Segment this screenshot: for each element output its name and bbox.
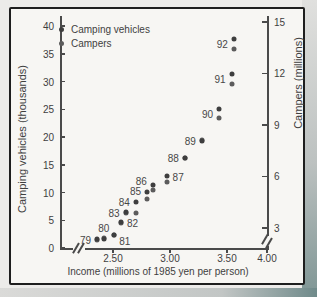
- chart-frame: Camping vehicles Campers Camping vehicle…: [9, 7, 305, 285]
- right-tick-label: 6: [274, 171, 280, 182]
- left-y-axis: [60, 16, 62, 248]
- left-tick-mark: [60, 81, 65, 83]
- camping-vehicles-data-point: [231, 37, 236, 42]
- year-label: 87: [173, 171, 184, 182]
- right-tick-mark: [262, 21, 267, 23]
- campers-data-point: [164, 179, 169, 184]
- camping-vehicles-data-point: [133, 199, 138, 204]
- right-axis-title: Campers (millions): [292, 37, 304, 129]
- right-tick-label: 12: [274, 68, 285, 79]
- campers-data-point: [150, 188, 155, 193]
- scatter-plot: Camping vehicles Campers Camping vehicle…: [11, 9, 303, 283]
- campers-data-point: [145, 196, 150, 201]
- camping-vehicles-data-point: [118, 220, 123, 225]
- left-tick-mark: [60, 192, 65, 194]
- left-tick-label: 20: [43, 132, 54, 143]
- x-tick-label: 2.50: [103, 253, 122, 264]
- left-tick-mark: [60, 136, 65, 138]
- left-tick-label: 0: [48, 243, 54, 254]
- right-tick-label: 3: [274, 223, 280, 234]
- left-tick-label: 5: [48, 215, 54, 226]
- year-label: 84: [119, 197, 130, 208]
- right-tick-label: 15: [274, 16, 285, 27]
- camping-vehicles-data-point: [145, 189, 150, 194]
- left-tick-label: 15: [43, 159, 54, 170]
- left-tick-mark: [60, 164, 65, 166]
- year-label: 90: [202, 108, 213, 119]
- camping-vehicles-data-point: [182, 155, 187, 160]
- year-label: 88: [168, 152, 179, 163]
- right-tick-label: 9: [274, 119, 280, 130]
- campers-data-point: [217, 116, 222, 121]
- x-tick-label: 3.50: [217, 253, 236, 264]
- year-label: 89: [185, 135, 196, 146]
- year-label: 86: [136, 176, 147, 187]
- left-tick-mark: [60, 220, 65, 222]
- left-tick-label: 40: [43, 21, 54, 32]
- left-tick-mark: [60, 109, 65, 111]
- campers-data-point: [229, 81, 234, 86]
- year-label: 85: [130, 186, 141, 197]
- left-tick-label: 10: [43, 187, 54, 198]
- campers-data-point: [133, 210, 138, 215]
- year-label: 81: [119, 235, 130, 246]
- x-axis: [60, 248, 269, 250]
- right-y-axis: [267, 16, 269, 248]
- camping-vehicles-data-point: [164, 173, 169, 178]
- legend-label-camping-vehicles: Camping vehicles: [71, 24, 150, 35]
- camping-vehicles-data-point: [150, 182, 155, 187]
- campers-data-point: [231, 47, 236, 52]
- x-axis-title: Income (millions of 1985 yen per person): [67, 266, 248, 277]
- camping-vehicles-data-point: [199, 138, 204, 143]
- year-label: 80: [98, 223, 109, 234]
- x-tick-label: 4.00: [257, 253, 276, 264]
- year-label: 83: [108, 207, 119, 218]
- left-tick-label: 35: [43, 48, 54, 59]
- camping-vehicles-data-point: [101, 236, 106, 241]
- left-tick-mark: [60, 247, 65, 249]
- x-tick-label: 3.00: [160, 253, 179, 264]
- camping-vehicles-dot-icon: [59, 27, 64, 32]
- year-label: 92: [217, 39, 228, 50]
- legend-label-campers: Campers: [71, 38, 112, 49]
- year-label: 82: [127, 217, 138, 228]
- left-tick-label: 30: [43, 76, 54, 87]
- camping-vehicles-data-point: [123, 210, 128, 215]
- legend: Camping vehicles Campers: [59, 22, 150, 50]
- right-tick-mark: [262, 124, 267, 126]
- camping-vehicles-data-point: [217, 107, 222, 112]
- left-axis-title: Camping vehicles (thousands): [16, 65, 28, 213]
- camping-vehicles-data-point: [95, 237, 100, 242]
- camping-vehicles-data-point: [229, 72, 234, 77]
- left-tick-mark: [60, 25, 65, 27]
- year-label: 79: [80, 234, 91, 245]
- campers-dot-icon: [59, 41, 64, 46]
- left-tick-mark: [60, 53, 65, 55]
- left-tick-label: 25: [43, 104, 54, 115]
- legend-item-camping-vehicles: Camping vehicles: [59, 22, 150, 36]
- camping-vehicles-data-point: [112, 232, 117, 237]
- right-tick-mark: [262, 227, 267, 229]
- year-label: 91: [214, 74, 225, 85]
- right-tick-mark: [262, 73, 267, 75]
- page-edge-bottom: [0, 288, 317, 297]
- right-tick-mark: [262, 176, 267, 178]
- legend-item-campers: Campers: [59, 36, 150, 50]
